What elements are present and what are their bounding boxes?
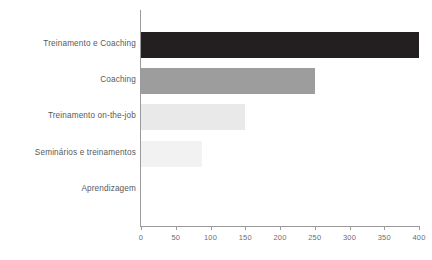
- bar-seminarios-e-treinamentos: [141, 141, 202, 167]
- x-tick-mark: [245, 226, 246, 230]
- x-tick-label: 400: [412, 233, 425, 242]
- category-label: Coaching: [100, 75, 136, 84]
- x-tick-mark: [350, 226, 351, 230]
- x-tick-mark: [141, 226, 142, 230]
- bar-treinamento-e-coaching: [141, 32, 419, 58]
- bar-treinamento-on-the-job: [141, 104, 245, 130]
- x-tick-label: 50: [171, 233, 180, 242]
- x-tick-label: 350: [378, 233, 391, 242]
- x-tick-mark: [211, 226, 212, 230]
- category-label: Treinamento on-the-job: [48, 111, 136, 120]
- x-tick-label: 150: [239, 233, 252, 242]
- x-tick-mark: [315, 226, 316, 230]
- x-tick-mark: [419, 226, 420, 230]
- category-label: Seminários e treinamentos: [35, 148, 136, 157]
- x-tick-label: 250: [308, 233, 321, 242]
- x-tick-mark: [384, 226, 385, 230]
- category-label: Treinamento e Coaching: [43, 39, 136, 48]
- bar-coaching: [141, 68, 315, 94]
- category-label: Aprendizagem: [81, 184, 136, 193]
- x-tick-label: 200: [273, 233, 286, 242]
- x-tick-mark: [176, 226, 177, 230]
- plot-area: Treinamento e Coaching Coaching Treiname…: [0, 0, 432, 260]
- x-tick-label: 300: [343, 233, 356, 242]
- x-tick-label: 100: [204, 233, 217, 242]
- x-tick-mark: [280, 226, 281, 230]
- x-tick-label: 0: [139, 233, 143, 242]
- bar-chart: Treinamento e Coaching Coaching Treiname…: [0, 0, 432, 260]
